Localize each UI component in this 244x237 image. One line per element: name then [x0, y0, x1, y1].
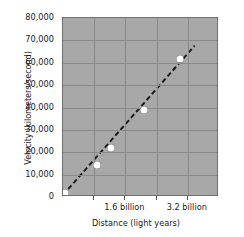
horizontal-gridline: [63, 130, 217, 131]
vertical-gridline: [188, 18, 189, 195]
y-axis-tick-label: 60,000: [25, 57, 54, 67]
horizontal-gridline: [63, 175, 217, 176]
x-axis-tick-mark: [156, 196, 157, 200]
y-axis-tick-label: 10,000: [25, 169, 54, 179]
vertical-gridline: [125, 18, 126, 195]
x-axis-tick-label: 1.6 billion: [104, 202, 144, 212]
x-axis-tick-labels: 1.6 billion3.2 billion: [0, 202, 244, 216]
plot-area: [62, 17, 218, 196]
x-axis-tick-mark: [124, 196, 125, 200]
data-point: [62, 189, 69, 196]
horizontal-gridline: [63, 152, 217, 153]
y-axis-tick-label: 40,000: [25, 102, 54, 112]
x-axis-tick-label: 3.2 billion: [167, 202, 207, 212]
x-axis-tick-mark: [187, 196, 188, 200]
horizontal-gridline: [63, 85, 217, 86]
data-point: [176, 56, 183, 63]
vertical-gridline: [157, 18, 158, 195]
y-axis-tick-label: 20,000: [25, 146, 54, 156]
data-point: [107, 144, 114, 151]
y-axis-tick-label: 80,000: [25, 12, 54, 22]
x-axis-tick-mark: [93, 196, 94, 200]
x-axis-title: Distance (light years): [0, 218, 244, 228]
y-axis-tick-label: 50,000: [25, 79, 54, 89]
data-point: [93, 161, 100, 168]
chart-figure: Velocity (kilometers/second) 80,00070,00…: [0, 0, 244, 237]
trend-line: [63, 18, 217, 195]
vertical-gridline: [94, 18, 95, 195]
horizontal-gridline: [63, 40, 217, 41]
data-point: [141, 106, 148, 113]
y-axis-tick-label: 30,000: [25, 124, 54, 134]
y-axis-tick-label: 70,000: [25, 34, 54, 44]
horizontal-gridline: [63, 63, 217, 64]
